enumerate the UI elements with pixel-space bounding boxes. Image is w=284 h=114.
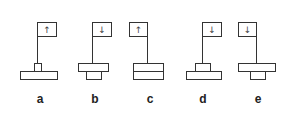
label-e: e — [255, 92, 262, 106]
wide-bar — [21, 72, 58, 80]
figure-d — [187, 23, 222, 80]
figure-a — [21, 23, 58, 80]
arrow-up-icon: ↑ — [135, 25, 143, 35]
small-block — [87, 72, 102, 80]
wide-bar — [187, 72, 222, 80]
label-c: c — [147, 92, 154, 106]
label-b: b — [91, 92, 98, 106]
label-d: d — [199, 92, 206, 106]
wide-bar — [79, 64, 109, 72]
wide-bar-top — [134, 64, 164, 72]
small-block — [35, 64, 42, 72]
figure-b — [79, 23, 112, 80]
arrow-up-icon: ↑ — [43, 25, 51, 35]
arrow-down-icon: ↓ — [98, 25, 106, 35]
diagram: ↑ ↓ ↑ ↓ ↓ a b c d e — [0, 0, 284, 114]
label-a: a — [37, 92, 44, 106]
arrow-down-icon: ↓ — [208, 25, 216, 35]
wide-bar — [239, 64, 276, 72]
wide-bar-bottom — [134, 72, 164, 80]
small-block — [196, 64, 211, 72]
small-block — [251, 72, 266, 80]
arrow-down-icon: ↓ — [244, 25, 252, 35]
